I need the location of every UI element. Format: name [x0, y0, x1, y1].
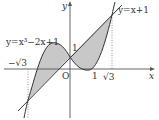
- curve-label: y=x³−2x+1: [5, 37, 59, 47]
- y-axis-label: y: [61, 1, 68, 11]
- cubic-curve: [24, 2, 115, 118]
- area-between-curves-figure: y=x³−2x+1 y=x+1 y x O −√3 √3 1 1: [0, 0, 159, 120]
- neg-sqrt3-label: −√3: [8, 58, 27, 68]
- origin-label: O: [62, 71, 69, 81]
- x-one-label: 1: [92, 71, 98, 81]
- line-label: y=x+1: [117, 5, 149, 15]
- x-axis-label: x: [149, 71, 154, 81]
- y-axis-arrow-icon: [68, 1, 72, 6]
- y-one-label: 1: [72, 43, 78, 53]
- sqrt3-label: √3: [103, 72, 115, 82]
